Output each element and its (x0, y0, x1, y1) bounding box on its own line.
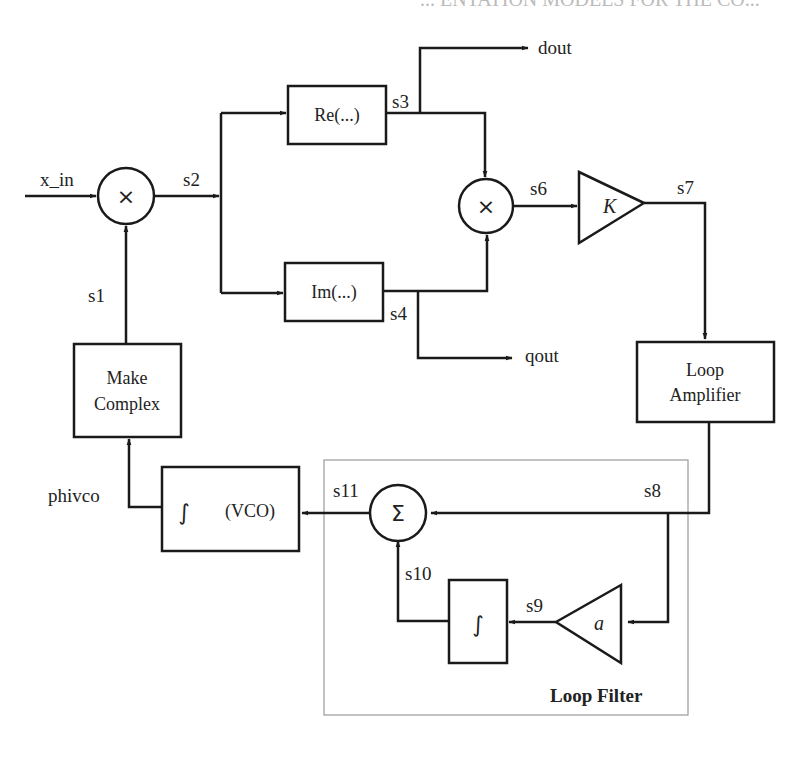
loop-amplifier-block[interactable]: Loop Amplifier (637, 342, 774, 422)
re-block-label: Re(...) (314, 105, 359, 126)
s1-label: s1 (88, 285, 105, 306)
qout-wire (418, 291, 512, 358)
loop-filter-label: Loop Filter (550, 685, 643, 706)
x-in-label: x_in (40, 169, 74, 190)
gain-k-label: K (602, 195, 618, 217)
s4-label: s4 (390, 303, 407, 324)
im-block[interactable]: Im(...) (285, 263, 383, 321)
page-header-fragment: ... ENTATION MODELS FOR THE CO... (420, 0, 760, 10)
make-complex-label-1: Make (107, 368, 148, 388)
s11-label: s11 (333, 480, 359, 501)
gain-a-block[interactable]: a (556, 585, 621, 663)
mixer-2[interactable]: × (459, 179, 513, 233)
integral-icon: ∫ (178, 500, 189, 525)
s3-label: s3 (392, 91, 409, 112)
qout-label: qout (525, 345, 560, 366)
s7-label: s7 (677, 177, 694, 198)
make-complex-block[interactable]: Make Complex (74, 344, 181, 437)
dout-wire (420, 48, 528, 113)
integral-icon: ∫ (472, 612, 483, 637)
gain-a-label: a (594, 612, 604, 634)
s7-wire (644, 203, 705, 339)
s2-label: s2 (183, 169, 200, 190)
phivco-wire (129, 439, 162, 507)
integrator-block[interactable]: ∫ (449, 580, 507, 663)
sigma-icon: Σ (391, 501, 405, 526)
s3-to-mixer2-wire (386, 113, 485, 177)
vco-label: (VCO) (225, 501, 275, 522)
multiply-icon: × (477, 194, 495, 219)
s6-label: s6 (530, 178, 547, 199)
vco-block[interactable]: ∫ (VCO) (162, 467, 299, 551)
phivco-label: phivco (48, 485, 100, 506)
s8-label: s8 (644, 480, 661, 501)
im-block-label: Im(...) (311, 282, 356, 303)
re-block[interactable]: Re(...) (288, 86, 386, 144)
make-complex-label-2: Complex (94, 394, 160, 414)
loop-amp-label-1: Loop (686, 360, 724, 380)
multiply-icon: × (117, 184, 135, 209)
loop-amp-label-2: Amplifier (670, 385, 741, 405)
s10-label: s10 (405, 563, 431, 584)
gain-k-block[interactable]: K (579, 172, 644, 243)
summer-block[interactable]: Σ (370, 485, 426, 541)
pll-block-diagram: ... ENTATION MODELS FOR THE CO... Loop F… (0, 0, 809, 757)
mixer-1[interactable]: × (98, 168, 154, 224)
s8-wire (431, 422, 709, 513)
s9-label: s9 (526, 595, 543, 616)
s8-to-a-wire (628, 513, 668, 622)
s4-to-mixer2-wire (383, 235, 487, 291)
dout-label: dout (538, 37, 573, 58)
